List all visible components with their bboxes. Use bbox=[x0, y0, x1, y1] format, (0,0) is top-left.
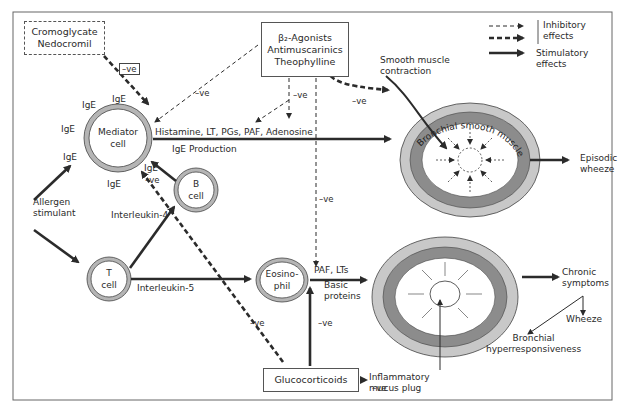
negative-effect-label-cromoglycate: –ve bbox=[119, 63, 140, 75]
interleukin4-label: Interleukin-4 bbox=[111, 210, 168, 221]
bronchial-text: Bronchial bbox=[486, 333, 581, 344]
negative-effect-label: –ve bbox=[195, 88, 210, 99]
effects-text: effects bbox=[536, 59, 588, 70]
allergen-text: Allergen bbox=[33, 197, 75, 208]
cell-text: cell bbox=[180, 190, 212, 202]
ige-label: IgE bbox=[63, 152, 77, 163]
cromoglycate-box: Cromoglycate Nedocromil bbox=[24, 21, 105, 55]
ige-production-label: IgE Production bbox=[172, 144, 237, 155]
cromoglycate-label: Cromoglycate bbox=[31, 26, 97, 38]
mediators-label: Histamine, LT, PGs, PAF, Adenosine bbox=[155, 127, 313, 138]
inflammatory-text: Inflammatory bbox=[369, 372, 430, 383]
negative-effect-label: –ve bbox=[318, 318, 333, 329]
wheeze-label: Wheeze bbox=[566, 314, 602, 325]
basic-text: Basic bbox=[324, 280, 361, 291]
ige-label: IgE bbox=[112, 94, 126, 105]
allergen-stimulant-label: Allergen stimulant bbox=[33, 197, 75, 219]
paf-lts-label: PAF, LTs bbox=[314, 265, 348, 276]
beta2-agonists-label: β₂-Agonists bbox=[278, 32, 332, 44]
t-text: T bbox=[93, 267, 125, 279]
smooth-muscle-contraction-label: Smooth muscle contraction bbox=[380, 55, 450, 77]
b-text: B bbox=[180, 178, 212, 190]
episodic-wheeze-label: Episodic wheeze bbox=[580, 153, 617, 175]
eosino-text: Eosino- bbox=[260, 268, 304, 280]
antimuscarinics-label: Antimuscarinics bbox=[267, 44, 343, 56]
chronic-text: Chronic bbox=[562, 267, 609, 278]
phil-text: phil bbox=[260, 280, 304, 292]
inhibitory-text: Inhibitory bbox=[543, 20, 586, 31]
bronchial-hyperresponsiveness-label: Bronchial hyperresponsiveness bbox=[486, 333, 581, 355]
cell-text: cell bbox=[94, 138, 142, 150]
ige-label: IgE bbox=[82, 100, 96, 111]
negative-effect-label: –ve bbox=[293, 90, 308, 101]
smooth-muscle-text: Smooth muscle bbox=[380, 55, 450, 66]
theophylline-label: Theophylline bbox=[275, 56, 336, 68]
negative-effect-label: –ve bbox=[372, 383, 387, 394]
ige-label: IgE bbox=[107, 179, 121, 190]
cell-text: cell bbox=[93, 279, 125, 291]
basic-proteins-label: Basic proteins bbox=[324, 280, 361, 302]
legend-stimulatory-label: Stimulatory effects bbox=[536, 48, 588, 70]
episodic-text: Episodic bbox=[580, 153, 617, 164]
b-cell-label: B cell bbox=[180, 178, 212, 202]
interleukin5-label: Interleukin-5 bbox=[137, 283, 194, 294]
contraction-text: contraction bbox=[380, 66, 450, 77]
beta-agonists-box: β₂-Agonists Antimuscarinics Theophylline bbox=[261, 22, 349, 77]
glucocorticoids-label: Glucocorticoids bbox=[274, 374, 347, 386]
stimulatory-text: Stimulatory bbox=[536, 48, 588, 59]
eosinophil-label: Eosino- phil bbox=[260, 268, 304, 292]
proteins-text: proteins bbox=[324, 291, 361, 302]
mediator-text: Mediator bbox=[94, 126, 142, 138]
symptoms-text: symptoms bbox=[562, 278, 609, 289]
legend-inhibitory-label: Inhibitory effects bbox=[543, 20, 586, 42]
ige-label: IgE bbox=[144, 163, 158, 174]
wheeze-text: wheeze bbox=[580, 164, 617, 175]
ige-label: IgE bbox=[61, 124, 75, 135]
effects-text: effects bbox=[543, 31, 586, 42]
glucocorticoids-box: Glucocorticoids bbox=[263, 368, 359, 392]
bronchus-acute-icon: Bronchial smooth muscle bbox=[400, 103, 540, 217]
negative-effect-label: –ve bbox=[319, 194, 334, 205]
asthma-diagram: Bronchial smooth muscle bbox=[0, 0, 625, 413]
mediator-cell-label: Mediator cell bbox=[94, 126, 142, 150]
stimulant-text: stimulant bbox=[33, 208, 75, 219]
negative-effect-label: –ve bbox=[145, 175, 160, 186]
chronic-symptoms-label: Chronic symptoms bbox=[562, 267, 609, 289]
negative-effect-label: –ve bbox=[250, 318, 265, 329]
nedocromil-label: Nedocromil bbox=[37, 38, 91, 50]
negative-effect-label: –ve bbox=[352, 96, 367, 107]
t-cell-label: T cell bbox=[93, 267, 125, 291]
hyperresponsiveness-text: hyperresponsiveness bbox=[486, 344, 581, 355]
